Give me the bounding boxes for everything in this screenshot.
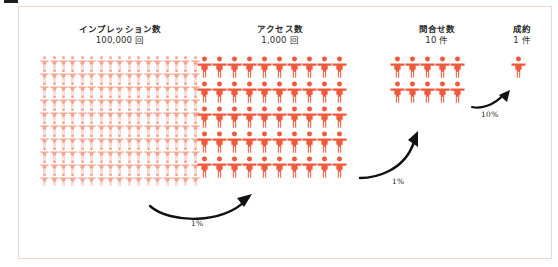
person-icon — [50, 160, 59, 173]
person-icon — [87, 134, 96, 147]
person-icon — [59, 147, 68, 160]
person-icon — [68, 69, 77, 82]
person-icon — [134, 173, 143, 186]
person-icon — [317, 81, 332, 103]
person-icon — [287, 81, 302, 103]
person-icon — [332, 56, 347, 78]
person-icon — [115, 108, 124, 121]
person-icon — [257, 56, 272, 78]
person-icon — [287, 56, 302, 78]
person-icon — [50, 108, 59, 121]
person-icon — [317, 156, 332, 178]
person-icon — [181, 69, 190, 82]
person-icon — [97, 134, 106, 147]
person-icon — [106, 160, 115, 173]
access-value: 1,000 回 — [215, 35, 345, 46]
person-icon — [163, 173, 172, 186]
person-icon — [59, 173, 68, 186]
person-icon — [106, 134, 115, 147]
person-icon — [106, 121, 115, 134]
person-icon — [59, 121, 68, 134]
pictogram-grid-inquiries — [390, 56, 464, 103]
person-icon — [405, 56, 420, 78]
person-icon — [106, 173, 115, 186]
person-icon — [68, 108, 77, 121]
person-icon — [40, 147, 49, 160]
person-icon — [257, 156, 272, 178]
contracts-title: 成約 — [495, 24, 549, 35]
person-icon — [227, 131, 242, 153]
person-icon — [153, 69, 162, 82]
person-icon — [163, 56, 172, 69]
person-icon — [97, 82, 106, 95]
person-icon — [78, 56, 87, 69]
person-icon — [97, 108, 106, 121]
person-icon — [242, 56, 257, 78]
person-icon — [181, 56, 190, 69]
person-icon — [450, 56, 465, 78]
person-icon — [212, 131, 227, 153]
person-icon — [420, 81, 435, 103]
person-icon — [50, 82, 59, 95]
column-label-contracts: 成約 1 件 — [495, 24, 549, 47]
person-icon — [172, 95, 181, 108]
person-icon — [87, 108, 96, 121]
person-icon — [172, 134, 181, 147]
person-icon — [106, 108, 115, 121]
person-icon — [317, 131, 332, 153]
pictogram-grid-contracts — [511, 56, 526, 78]
person-icon — [115, 160, 124, 173]
person-icon — [87, 160, 96, 173]
person-icon — [153, 108, 162, 121]
person-icon — [172, 82, 181, 95]
person-icon — [144, 121, 153, 134]
person-icon — [332, 81, 347, 103]
conversion-label-2: 1% — [392, 177, 405, 186]
person-icon — [50, 173, 59, 186]
person-icon — [68, 56, 77, 69]
person-icon — [153, 147, 162, 160]
person-icon — [302, 106, 317, 128]
person-icon — [87, 95, 96, 108]
person-icon — [97, 147, 106, 160]
person-icon — [59, 82, 68, 95]
person-icon — [59, 69, 68, 82]
person-icon — [134, 121, 143, 134]
person-icon — [87, 147, 96, 160]
person-icon — [134, 108, 143, 121]
person-icon — [40, 121, 49, 134]
person-icon — [106, 147, 115, 160]
person-icon — [106, 95, 115, 108]
person-icon — [172, 69, 181, 82]
person-icon — [87, 56, 96, 69]
person-icon — [212, 56, 227, 78]
person-icon — [302, 131, 317, 153]
person-icon — [227, 81, 242, 103]
person-icon — [153, 160, 162, 173]
person-icon — [390, 81, 405, 103]
person-icon — [125, 95, 134, 108]
person-icon — [153, 121, 162, 134]
person-icon — [134, 82, 143, 95]
person-icon — [153, 56, 162, 69]
person-icon — [332, 131, 347, 153]
person-icon — [257, 106, 272, 128]
person-icon — [405, 81, 420, 103]
person-icon — [332, 156, 347, 178]
person-icon — [144, 82, 153, 95]
person-icon — [115, 134, 124, 147]
person-icon — [40, 173, 49, 186]
person-icon — [78, 160, 87, 173]
person-icon — [144, 134, 153, 147]
person-icon — [97, 121, 106, 134]
person-icon — [68, 95, 77, 108]
person-icon — [511, 56, 526, 78]
person-icon — [40, 134, 49, 147]
infographic-canvas: インプレッション数 100,000 回 アクセス数 1,000 回 問合せ数 1… — [0, 0, 558, 267]
person-icon — [125, 56, 134, 69]
person-icon — [163, 82, 172, 95]
person-icon — [153, 82, 162, 95]
person-icon — [242, 131, 257, 153]
person-icon — [40, 56, 49, 69]
person-icon — [435, 56, 450, 78]
